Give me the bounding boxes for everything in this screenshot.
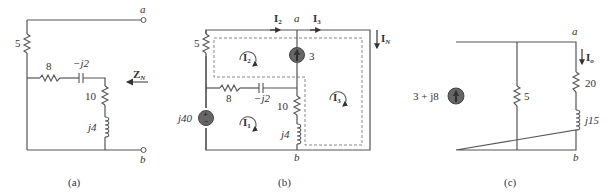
resistor-8 <box>220 85 240 91</box>
label-mesh-i1: I1 <box>243 116 251 130</box>
circuit-c: a b Io 5 20 j15 3 + j8 (c) <box>413 25 600 189</box>
svg-text:+: + <box>204 111 208 118</box>
inductor-j15 <box>576 110 580 130</box>
capacitor-neg-j2 <box>79 73 83 83</box>
label-5: 5 <box>15 37 21 49</box>
label-in: IN <box>381 32 391 46</box>
svg-text:−: − <box>204 118 208 125</box>
label-neg-j2: −j2 <box>73 57 89 69</box>
resistor-8 <box>40 75 60 81</box>
label-neg-j2: −j2 <box>254 92 270 104</box>
terminal-a <box>141 18 146 23</box>
label-10: 10 <box>277 100 289 112</box>
caption-a: (a) <box>68 176 81 189</box>
caption-c: (c) <box>504 176 517 189</box>
resistor-5 <box>24 34 30 53</box>
label-5: 5 <box>194 37 200 49</box>
label-10: 10 <box>85 90 97 102</box>
label-3: 3 <box>309 50 315 62</box>
label-mesh-i3: I3 <box>333 91 341 105</box>
resistor-10 <box>294 96 300 115</box>
circuit-figures: a b 5 8 −j2 10 j4 ZN (a) + − <box>0 0 612 196</box>
circuit-b: + − I2 a I3 IN I1 I2 I3 5 8 −j2 10 <box>176 12 391 189</box>
label-i3-top: I3 <box>313 12 321 26</box>
label-8: 8 <box>46 60 52 72</box>
label-a: a <box>572 25 578 37</box>
label-b: b <box>294 151 300 163</box>
terminal-b <box>141 148 146 153</box>
caption-b: (b) <box>278 176 291 189</box>
label-i2-top: I2 <box>274 12 282 26</box>
label-zn: ZN <box>133 68 146 82</box>
label-b: b <box>140 153 146 165</box>
label-j4: j4 <box>279 128 290 140</box>
label-a: a <box>140 3 146 15</box>
label-5: 5 <box>524 90 530 102</box>
label-8: 8 <box>226 92 232 104</box>
resistor-5 <box>514 86 520 106</box>
label-j15: j15 <box>583 114 600 126</box>
label-20: 20 <box>585 77 597 89</box>
label-b: b <box>573 151 579 163</box>
label-io: Io <box>586 51 594 65</box>
inductor-j4 <box>297 124 301 144</box>
circuit-a: a b 5 8 −j2 10 j4 ZN (a) <box>15 3 148 189</box>
label-a: a <box>294 12 300 24</box>
label-3-plus-j8: 3 + j8 <box>413 90 439 102</box>
label-j4: j4 <box>86 121 97 133</box>
label-j40: j40 <box>176 112 193 124</box>
resistor-20 <box>573 72 579 92</box>
inductor-j4 <box>105 117 109 137</box>
label-mesh-i2: I2 <box>243 51 251 65</box>
resistor-10 <box>102 86 108 105</box>
